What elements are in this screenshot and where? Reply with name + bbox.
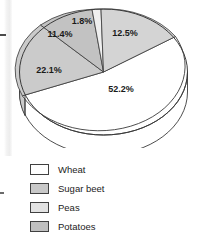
legend-label-wheat: Wheat <box>58 164 85 175</box>
legend-item-potatoes: Potatoes <box>30 217 190 235</box>
legend-label-peas: Peas <box>58 202 80 213</box>
pie-label-peas-small: 1.8% <box>72 16 93 26</box>
legend-item-sugar-beet: Sugar beet <box>30 179 190 197</box>
pie-label-peas-large: 12.5% <box>112 28 138 38</box>
legend-label-sugar-beet: Sugar beet <box>58 183 104 194</box>
legend-swatch-sugar-beet <box>30 183 49 194</box>
legend-swatch-peas <box>30 202 49 213</box>
legend-swatch-wheat <box>30 164 49 175</box>
pie-label-potatoes: 11.4% <box>47 29 72 39</box>
legend-item-wheat: Wheat <box>30 160 190 178</box>
chart-legend: Wheat Sugar beet Peas Potatoes <box>30 160 190 236</box>
legend-label-potatoes: Potatoes <box>58 221 96 232</box>
legend-item-peas: Peas <box>30 198 190 216</box>
legend-swatch-potatoes <box>30 221 49 232</box>
pie-label-sugar-beet: 22.1% <box>36 65 62 75</box>
pie-chart: 1.8% 11.4% 12.5% 22.1% 52.2% <box>0 0 199 148</box>
pie-label-wheat: 52.2% <box>108 84 134 94</box>
margin-tick-mark-bottom <box>0 192 4 194</box>
